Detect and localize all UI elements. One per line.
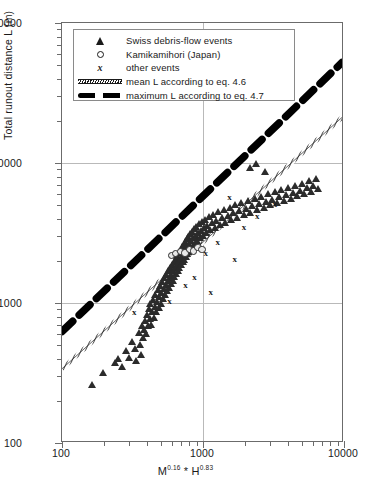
y-axis-tick — [55, 163, 62, 164]
y-axis-title: Total runout distance L (m) — [2, 124, 14, 140]
y-axis-tick — [57, 54, 62, 55]
x-axis-tick — [288, 441, 289, 446]
y-axis-tick — [57, 29, 62, 30]
y-axis-tick — [57, 185, 62, 186]
legend-label: Kamikamihori (Japan) — [126, 49, 220, 60]
gridline-horizontal — [62, 303, 342, 304]
x-axis-title-h-exponent: 0.83 — [200, 464, 213, 471]
y-axis-tick — [57, 45, 62, 46]
legend-item-mean-line: mean L according to eq. 4.6 — [74, 75, 294, 89]
x-tick-label-1000: 1000 — [172, 447, 232, 459]
data-point-triangle — [118, 363, 126, 370]
x-axis-tick — [322, 441, 323, 446]
y-axis-tick — [57, 65, 62, 66]
x-tick-label-10000: 10000 — [313, 447, 371, 459]
data-point-x: x — [227, 193, 232, 202]
y-tick-label-100: 100 — [4, 437, 22, 449]
data-point-x: x — [132, 308, 137, 317]
data-point-x: x — [204, 249, 209, 258]
gridline-horizontal — [62, 163, 342, 164]
x-axis-title-operator: * — [181, 465, 192, 477]
data-point-x: x — [183, 281, 188, 290]
y-axis-tick — [55, 23, 62, 24]
x-axis-tick — [270, 441, 271, 446]
plot-area: xxxxxxxxxxxx Swiss debris-flow events Ka… — [61, 22, 343, 442]
y-axis-tick — [57, 37, 62, 38]
x-axis-tick — [189, 441, 190, 446]
x-axis-tick — [338, 441, 339, 446]
y-axis-tick — [57, 261, 62, 262]
dashed-line-icon — [74, 93, 126, 98]
y-tick-label-10000: 10000 — [0, 157, 22, 169]
legend-label: maximum L according to eq. 4.7 — [126, 90, 264, 101]
x-axis-tick — [330, 441, 331, 446]
y-axis-tick — [57, 79, 62, 80]
y-axis-tick — [57, 169, 62, 170]
x-axis-tick — [302, 441, 303, 446]
y-axis-tick — [57, 96, 62, 97]
data-point-triangle — [132, 357, 140, 364]
x-axis-tick — [147, 441, 148, 446]
x-axis-title-m-exponent: 0.16 — [167, 464, 180, 471]
hatched-line-icon — [74, 79, 126, 84]
legend-item-swiss-debris-flow-events: Swiss debris-flow events — [74, 34, 294, 48]
y-axis-tick — [55, 443, 62, 444]
y-axis-tick — [57, 121, 62, 122]
data-point-triangle — [142, 330, 150, 337]
data-point-x: x — [255, 212, 260, 221]
chart-legend: Swiss debris-flow events Kamikamihori (J… — [73, 29, 295, 101]
y-axis-tick — [57, 194, 62, 195]
data-point-triangle — [114, 355, 122, 362]
y-axis-tick — [57, 359, 62, 360]
y-axis-tick — [57, 325, 62, 326]
y-tick-label-100000: 100000 — [0, 17, 22, 29]
data-point-triangle — [314, 185, 322, 192]
triangle-marker-icon — [74, 37, 126, 45]
y-axis-tick — [57, 345, 62, 346]
data-point-triangle — [147, 321, 155, 328]
x-axis-tick — [313, 441, 314, 446]
y-axis-tick — [57, 401, 62, 402]
y-tick-label-1000: 1000 — [0, 297, 22, 309]
data-point-x: x — [273, 200, 278, 209]
y-axis-tick — [57, 177, 62, 178]
y-axis-tick — [57, 376, 62, 377]
x-axis-tick — [104, 441, 105, 446]
data-point-triangle — [136, 341, 144, 348]
x-axis-tick — [197, 441, 198, 446]
data-point-x: x — [216, 238, 221, 247]
legend-label: other events — [126, 62, 179, 73]
x-axis-tick — [62, 441, 63, 448]
y-axis-tick — [57, 219, 62, 220]
data-point-triangle — [99, 369, 107, 376]
x-axis-title-h-base: H — [192, 465, 200, 477]
x-axis-tick — [203, 441, 204, 448]
x-tick-label-100: 100 — [31, 447, 91, 459]
legend-item-other-events: x other events — [74, 61, 294, 75]
y-axis-tick — [57, 334, 62, 335]
x-axis-tick — [181, 441, 182, 446]
mean-line — [62, 117, 342, 368]
legend-item-kamikamihori: Kamikamihori (Japan) — [74, 48, 294, 62]
data-point-triangle — [88, 381, 96, 388]
data-point-x: x — [192, 273, 197, 282]
data-point-x: x — [242, 223, 247, 232]
x-axis-tick — [129, 441, 130, 446]
data-point-triangle — [312, 175, 320, 182]
x-axis-title-m-base: M — [158, 465, 167, 477]
y-axis-tick — [55, 303, 62, 304]
legend-item-maximum-line: maximum L according to eq. 4.7 — [74, 88, 294, 102]
x-axis-tick — [344, 441, 345, 448]
y-axis-tick — [57, 236, 62, 237]
data-point-x: x — [209, 288, 214, 297]
data-point-triangle — [137, 351, 145, 358]
x-axis-tick — [161, 441, 162, 446]
x-axis-tick — [245, 441, 246, 446]
x-axis-title: M0.16 * H0.83 — [0, 464, 371, 477]
data-point-x: x — [167, 297, 172, 306]
legend-label: Swiss debris-flow events — [126, 35, 232, 46]
data-point-triangle — [128, 338, 136, 345]
legend-label: mean L according to eq. 4.6 — [126, 76, 246, 87]
y-axis-tick — [57, 205, 62, 206]
data-point-triangle — [252, 160, 260, 167]
